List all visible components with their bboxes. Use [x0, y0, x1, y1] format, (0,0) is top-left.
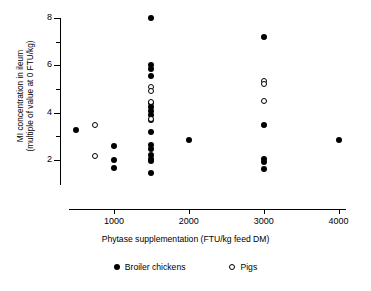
- data-point: [148, 15, 154, 21]
- y-tick-minor-7: [56, 42, 60, 43]
- chart-legend: Broiler chickens Pigs: [0, 262, 371, 272]
- data-point: [186, 137, 192, 143]
- data-point: [148, 170, 154, 176]
- filled-circle-icon: [114, 264, 120, 270]
- data-point: [261, 159, 267, 165]
- y-tick-label-8: 8: [8, 13, 52, 23]
- y-tick-label-text: 2: [12, 155, 52, 164]
- data-point: [111, 165, 117, 171]
- x-tick-label-4000: 4000: [316, 216, 362, 226]
- y-tick-4: [54, 113, 60, 114]
- data-point: [148, 129, 154, 135]
- data-point: [261, 98, 267, 104]
- y-tick-label-text: 8: [12, 13, 52, 22]
- x-tick-2000: [189, 209, 190, 214]
- y-tick-minor-5: [56, 89, 60, 90]
- data-point: [148, 88, 154, 94]
- legend-label-broiler-chickens: Broiler chickens: [125, 262, 186, 272]
- data-point: [73, 127, 79, 133]
- legend-item-pigs: Pigs: [229, 262, 257, 272]
- data-point: [261, 166, 267, 172]
- y-tick-8: [54, 18, 60, 19]
- legend-label-pigs: Pigs: [240, 262, 257, 272]
- x-tick-1000: [114, 209, 115, 214]
- y-tick-label-4: 4: [8, 108, 52, 118]
- x-axis-line: [69, 209, 346, 210]
- x-tick-4000: [339, 209, 340, 214]
- data-point: [92, 122, 98, 128]
- data-point: [148, 158, 154, 164]
- legend-item-broiler-chickens: Broiler chickens: [114, 262, 186, 272]
- data-point: [111, 143, 117, 149]
- scatter-plot-figure: MI concentration in ileum (multiple of v…: [0, 0, 371, 291]
- x-tick-label-2000: 2000: [166, 216, 212, 226]
- data-point: [336, 137, 342, 143]
- y-tick-label-6: 6: [8, 60, 52, 70]
- open-circle-icon: [229, 264, 235, 270]
- y-tick-label-2: 2: [8, 155, 52, 165]
- y-tick-minor-3: [56, 136, 60, 137]
- data-point: [111, 157, 117, 163]
- y-tick-label-text: 6: [12, 60, 52, 69]
- data-point: [148, 116, 154, 122]
- data-point: [261, 81, 267, 87]
- data-point: [148, 73, 154, 79]
- data-point: [261, 122, 267, 128]
- y-axis-title: MI concentration in ileum (multiple of v…: [8, 0, 42, 196]
- y-tick-label-text: 4: [12, 108, 52, 117]
- y-tick-2: [54, 160, 60, 161]
- data-point: [148, 66, 154, 72]
- y-axis-title-line2: (multiple of value at 0 FTU/kg): [25, 40, 35, 151]
- y-tick-6: [54, 65, 60, 66]
- x-tick-label-1000: 1000: [91, 216, 137, 226]
- x-axis-title: Phytase supplementation (FTU/kg feed DM): [0, 234, 371, 244]
- x-tick-3000: [264, 209, 265, 214]
- x-tick-label-3000: 3000: [241, 216, 287, 226]
- data-point: [92, 153, 98, 159]
- data-point: [261, 34, 267, 40]
- y-axis-line: [60, 18, 61, 185]
